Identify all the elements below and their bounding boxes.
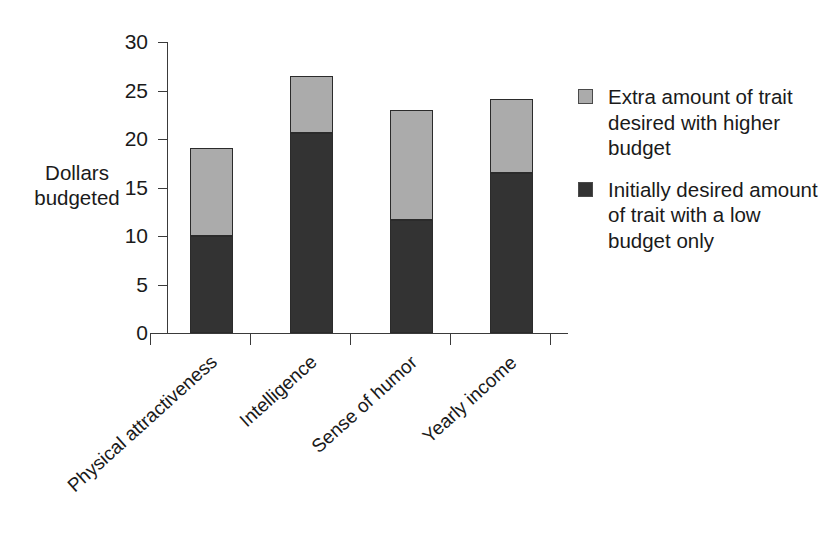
y-tick-label-5: 5 <box>136 274 148 295</box>
y-axis-title-line-2: budgeted <box>22 185 132 210</box>
x-tick-2 <box>350 334 351 345</box>
bar-segment-initial-amount[interactable] <box>490 173 533 333</box>
y-tick-5 <box>158 285 167 286</box>
bar-intelligence[interactable] <box>290 42 333 333</box>
plot-area <box>167 42 560 333</box>
bar-segment-extra-amount[interactable] <box>490 99 533 173</box>
x-label-sense-of-humor: Sense of humor <box>308 352 420 456</box>
x-axis-line <box>150 333 568 334</box>
y-tick-25 <box>158 91 167 92</box>
legend-entry-initial-amount[interactable]: Initially desired amount of trait with a… <box>578 177 828 254</box>
bar-yearly-income[interactable] <box>490 42 533 333</box>
bar-segment-initial-amount[interactable] <box>190 236 233 333</box>
legend-label-extra-line-1: Extra amount of trait <box>608 84 828 110</box>
legend-label-extra-line-2: desired with higher <box>608 110 828 136</box>
y-tick-20 <box>158 139 167 140</box>
y-tick-label-10: 10 <box>125 225 148 246</box>
x-tick-end <box>550 334 551 345</box>
y-tick-15 <box>158 188 167 189</box>
x-label-intelligence: Intelligence <box>236 352 320 430</box>
y-tick-30 <box>158 42 167 43</box>
legend-swatch-extra-amount <box>578 89 593 104</box>
y-axis-title-line-1: Dollars <box>22 160 132 185</box>
stacked-bar-chart: Dollars budgeted 051015202530 Physical a… <box>0 0 831 548</box>
bar-segment-extra-amount[interactable] <box>190 148 233 236</box>
x-label-physical-attractiveness: Physical attractiveness <box>64 352 220 495</box>
x-tick-0 <box>150 334 151 345</box>
legend-label-initial-line-2: of trait with a low <box>608 202 828 228</box>
bar-segment-initial-amount[interactable] <box>290 133 333 333</box>
bar-segment-extra-amount[interactable] <box>290 76 333 133</box>
bar-segment-initial-amount[interactable] <box>390 220 433 333</box>
legend-label-initial-amount: Initially desired amount of trait with a… <box>608 177 828 254</box>
y-tick-label-30: 30 <box>125 31 148 52</box>
y-tick-10 <box>158 236 167 237</box>
chart-legend: Extra amount of trait desired with highe… <box>578 84 828 269</box>
x-label-yearly-income: Yearly income <box>419 352 520 446</box>
bar-physical-attractiveness[interactable] <box>190 42 233 333</box>
bar-sense-of-humor[interactable] <box>390 42 433 333</box>
y-axis-title: Dollars budgeted <box>22 160 132 210</box>
legend-label-initial-line-3: budget only <box>608 228 828 254</box>
legend-label-initial-line-1: Initially desired amount <box>608 177 828 203</box>
y-tick-label-20: 20 <box>125 128 148 149</box>
legend-label-extra-amount: Extra amount of trait desired with highe… <box>608 84 828 161</box>
y-tick-label-15: 15 <box>125 177 148 198</box>
x-tick-1 <box>250 334 251 345</box>
legend-label-extra-line-3: budget <box>608 135 828 161</box>
y-tick-label-0: 0 <box>136 322 148 343</box>
y-tick-label-25: 25 <box>125 80 148 101</box>
legend-entry-extra-amount[interactable]: Extra amount of trait desired with highe… <box>578 84 828 161</box>
bar-segment-extra-amount[interactable] <box>390 110 433 221</box>
legend-swatch-initial-amount <box>578 182 593 197</box>
x-tick-3 <box>450 334 451 345</box>
y-tick-0 <box>158 333 167 334</box>
